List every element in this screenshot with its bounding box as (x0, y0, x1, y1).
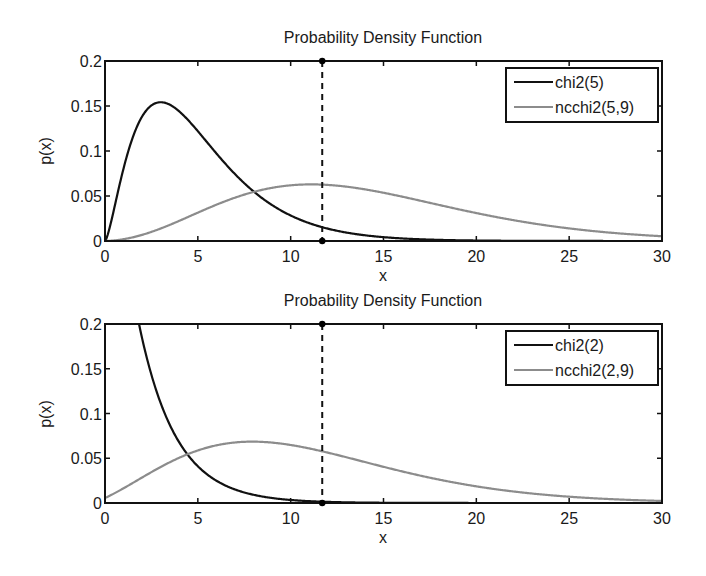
legend: chi2(2) ncchi2(2,9) (506, 331, 658, 385)
y-tick-label: 0.05 (71, 450, 102, 467)
marker-dot (319, 321, 325, 327)
legend: chi2(5) ncchi2(5,9) (506, 68, 658, 122)
legend-label: ncchi2(2,9) (555, 362, 634, 379)
legend-label: chi2(2) (555, 337, 604, 354)
y-tick-label: 0.2 (80, 53, 102, 70)
x-tick-label: 15 (375, 248, 393, 265)
y-axis-label: p(x) (37, 137, 54, 165)
marker-dot (319, 238, 325, 244)
x-axis-label: x (379, 267, 387, 284)
x-tick-label: 20 (467, 248, 485, 265)
marker-dot (319, 58, 325, 64)
y-tick-label: 0.15 (71, 361, 102, 378)
x-axis-label: x (379, 529, 387, 546)
y-tick-label: 0 (93, 495, 102, 512)
x-tick-label: 30 (653, 248, 671, 265)
x-tick-label: 0 (101, 248, 110, 265)
x-tick-label: 10 (282, 510, 300, 527)
y-tick-label: 0.15 (71, 98, 102, 115)
y-tick-label: 0.2 (80, 316, 102, 333)
x-tick-label: 30 (653, 510, 671, 527)
x-tick-label: 25 (560, 248, 578, 265)
legend-label: chi2(5) (555, 74, 604, 91)
y-tick-label: 0.1 (80, 143, 102, 160)
y-axis-label: p(x) (37, 400, 54, 428)
legend-label: ncchi2(5,9) (555, 99, 634, 116)
figure: Probability Density Function p(x) x 0510… (0, 0, 706, 576)
x-tick-label: 15 (375, 510, 393, 527)
y-tick-label: 0.05 (71, 188, 102, 205)
x-tick-label: 10 (282, 248, 300, 265)
y-tick-label: 0.1 (80, 406, 102, 423)
x-tick-label: 5 (193, 248, 202, 265)
x-tick-label: 25 (560, 510, 578, 527)
x-tick-label: 5 (193, 510, 202, 527)
plot-title: Probability Density Function (284, 29, 482, 46)
x-tick-label: 20 (467, 510, 485, 527)
plot-title: Probability Density Function (284, 292, 482, 309)
marker-dot (319, 500, 325, 506)
y-tick-label: 0 (93, 233, 102, 250)
x-tick-label: 0 (101, 510, 110, 527)
